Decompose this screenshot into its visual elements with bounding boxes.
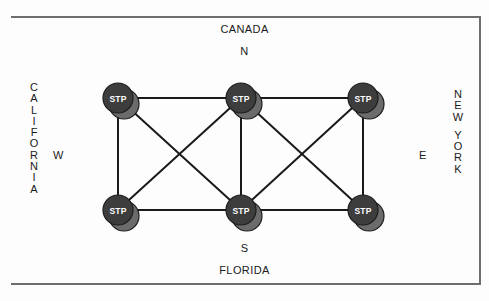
- node-label: STP: [354, 94, 371, 104]
- label-compass-east: E: [419, 150, 427, 161]
- node-label: STP: [109, 206, 126, 216]
- label-letter: W: [453, 112, 463, 123]
- label-canada: CANADA: [0, 24, 489, 35]
- node-label: STP: [232, 206, 249, 216]
- graph-node[interactable]: STP: [226, 83, 262, 119]
- label-compass-north: N: [0, 46, 489, 57]
- node-layer: STPSTPSTPSTPSTPSTP: [103, 83, 384, 231]
- label-letter: A: [30, 184, 37, 195]
- label-letter: E: [454, 100, 461, 111]
- label-new-york: NEWYORK: [451, 89, 465, 175]
- graph-node[interactable]: STP: [103, 83, 139, 119]
- node-label: STP: [109, 94, 126, 104]
- label-california: CALIFORNIA: [27, 82, 41, 195]
- graph-node[interactable]: STP: [348, 83, 384, 119]
- label-compass-south: S: [0, 243, 489, 254]
- node-label: STP: [354, 206, 371, 216]
- label-letter: I: [32, 172, 35, 183]
- graph-node[interactable]: STP: [103, 195, 139, 231]
- node-label: STP: [232, 94, 249, 104]
- label-compass-west: W: [53, 150, 64, 161]
- label-florida: FLORIDA: [0, 265, 489, 276]
- diagram-canvas: STPSTPSTPSTPSTPSTP CANADA N S FLORIDA W …: [0, 0, 489, 301]
- label-letter: A: [30, 93, 37, 104]
- label-letter: K: [454, 164, 461, 175]
- graph-node[interactable]: STP: [226, 195, 262, 231]
- graph-node[interactable]: STP: [348, 195, 384, 231]
